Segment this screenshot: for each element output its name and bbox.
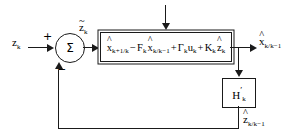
feedback-arrowhead	[55, 62, 63, 69]
block-diagram-canvas: zk + Σ − ~zk ^xk+1/k−Fk^xk/k−1+Γkuk+Kk^z…	[0, 0, 295, 140]
measurement-matrix-block: H′k	[222, 78, 256, 108]
measurement-matrix-label: H′k	[232, 86, 246, 101]
state-prediction-equation: ^xk+1/k−Fk^xk/k−1+Γkuk+Kk^zk	[107, 42, 226, 53]
feedback-horizontal-wire	[58, 128, 239, 129]
top-input-wire	[165, 5, 166, 25]
plus-sign: +	[43, 31, 52, 42]
output-signal-label: ^xk/k−1	[259, 36, 281, 47]
top-input-arrowhead	[162, 23, 170, 30]
feedback-down-wire	[238, 106, 239, 129]
tilde-accent: ~	[79, 16, 84, 26]
input-wire	[28, 47, 48, 48]
innovation-arrowhead	[92, 44, 99, 52]
feedback-up-wire	[58, 70, 59, 128]
input-signal-label: zk	[12, 37, 21, 48]
innovation-label: ~zk	[79, 22, 88, 33]
feedback-signal-label: ^zk/k−1	[243, 114, 265, 125]
output-wire	[230, 47, 252, 48]
feedback-tap-arrowhead	[235, 70, 243, 77]
sigma-symbol: Σ	[66, 42, 74, 54]
input-arrowhead	[47, 44, 54, 52]
summing-junction: Σ	[55, 33, 85, 63]
output-arrowhead	[250, 44, 257, 52]
state-prediction-block: ^xk+1/k−Fk^xk/k−1+Γkuk+Kk^zk	[100, 32, 232, 62]
